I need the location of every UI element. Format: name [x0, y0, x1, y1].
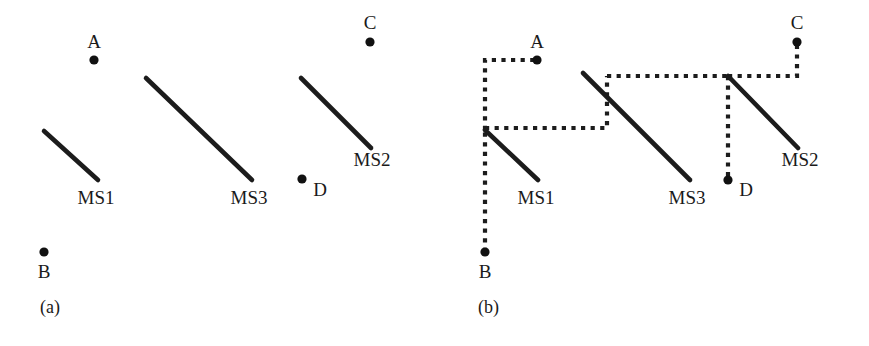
- node-label-d-a: D: [313, 179, 327, 200]
- panel-caption-b: (b): [478, 297, 499, 318]
- node-dot-b-b: [480, 247, 489, 256]
- link-ms1-to-a-b: [485, 60, 537, 130]
- link-ms1-to-ms3-b: [485, 76, 607, 128]
- trajectory-label-ms1-a: MS1: [78, 187, 115, 208]
- node-label-a-a: A: [87, 31, 101, 52]
- panel-a: MS1MS3MS2ABCD(a): [38, 12, 391, 318]
- node-dot-d-a: [297, 174, 306, 183]
- node-label-b-b: B: [479, 261, 492, 282]
- node-dot-d-b: [723, 175, 732, 184]
- trajectory-label-ms2-a: MS2: [354, 149, 391, 170]
- trajectory-label-ms1-b: MS1: [518, 187, 555, 208]
- node-dot-a-b: [532, 55, 541, 64]
- link-ms2-to-c-b: [728, 42, 797, 76]
- trajectory-label-ms3-a: MS3: [231, 187, 268, 208]
- figure-root: MS1MS3MS2ABCD(a) MS1MS3MS2ABCD(b): [0, 0, 869, 346]
- trajectory-ms2-b: [728, 76, 798, 148]
- node-label-b-a: B: [38, 261, 51, 282]
- panel-caption-a: (a): [40, 297, 60, 318]
- node-label-c-a: C: [364, 12, 377, 33]
- node-dot-c-a: [365, 37, 374, 46]
- trajectory-ms2-a: [301, 78, 371, 148]
- trajectory-ms1-b: [485, 130, 538, 180]
- trajectory-ms3-a: [146, 78, 252, 180]
- node-dot-b-a: [39, 247, 48, 256]
- trajectory-ms3-b: [583, 73, 690, 180]
- figure-canvas: MS1MS3MS2ABCD(a) MS1MS3MS2ABCD(b): [0, 0, 869, 346]
- trajectory-label-ms2-b: MS2: [782, 149, 819, 170]
- panel-b: MS1MS3MS2ABCD(b): [478, 12, 818, 318]
- node-dot-c-b: [792, 37, 801, 46]
- node-label-c-b: C: [791, 12, 804, 33]
- node-label-a-b: A: [530, 31, 544, 52]
- node-dot-a-a: [89, 55, 98, 64]
- trajectory-ms1-a: [44, 131, 98, 180]
- node-label-d-b: D: [739, 179, 753, 200]
- trajectory-label-ms3-b: MS3: [669, 187, 706, 208]
